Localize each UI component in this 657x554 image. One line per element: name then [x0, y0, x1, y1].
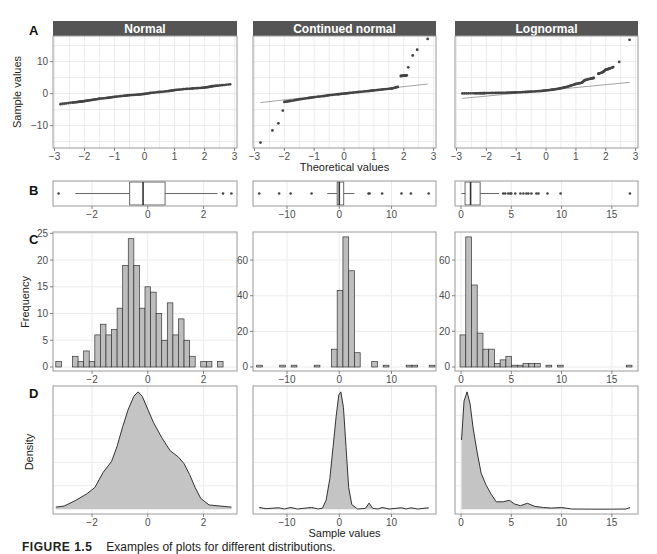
histogram-bar: [145, 287, 151, 367]
box-iqr: [465, 182, 480, 205]
box-iqr: [337, 182, 344, 205]
x-tick-label: 5: [509, 209, 515, 220]
outlier-point: [530, 192, 533, 195]
x-tick-label: 2: [201, 209, 207, 220]
histogram-bar: [184, 340, 190, 367]
y-tick-label: 20: [439, 326, 451, 337]
histogram-bar: [412, 365, 418, 367]
strip-title: Continued normal: [293, 22, 396, 36]
y-axis-label-sample-values: Sample values: [11, 55, 23, 128]
histogram-bar: [314, 365, 320, 367]
x-tick-label: 10: [556, 374, 568, 385]
x-tick-label: −3: [451, 151, 463, 162]
histogram-bar: [128, 239, 134, 367]
x-tick-label: −10: [279, 374, 296, 385]
histogram-panel-2: −100100204060: [237, 232, 436, 385]
x-tick-label: 10: [386, 209, 398, 220]
histogram-bar: [73, 356, 79, 367]
density-panel-3: 051015: [455, 386, 638, 528]
x-tick-label: 3: [431, 151, 437, 162]
figure-canvas: Normal−3−2−10123−10010Continued normal−3…: [0, 0, 657, 554]
histogram-bar: [84, 351, 90, 367]
histogram-bar: [56, 362, 62, 367]
histogram-bar: [337, 290, 343, 367]
row-label-b: B: [29, 183, 38, 198]
y-tick-label: 10: [37, 56, 49, 67]
y-axis-label-frequency: Frequency: [19, 276, 31, 328]
strip-title: Lognormal: [516, 22, 578, 36]
histogram-bar: [483, 349, 489, 367]
histogram-bar: [512, 365, 518, 367]
x-tick-label: −2: [481, 151, 493, 162]
histograms: −2020510152025−1001002040600510150204060…: [19, 228, 638, 385]
histogram-bar: [178, 319, 184, 367]
histogram-bar: [280, 365, 286, 367]
histogram-bar: [89, 362, 95, 367]
box-panel-1: −202: [53, 181, 237, 220]
histogram-bar: [257, 365, 263, 367]
histogram-bar: [429, 365, 435, 367]
outlier-point: [57, 192, 60, 195]
histogram-bar: [372, 362, 378, 367]
histogram-bar: [106, 335, 112, 367]
outlier-point: [514, 192, 517, 195]
histogram-bar: [460, 335, 466, 367]
x-tick-label: 1: [573, 151, 579, 162]
y-tick-label: 60: [237, 255, 249, 266]
y-tick-label: −10: [31, 120, 48, 131]
x-tick-label: 2: [201, 374, 207, 385]
x-tick-label: 10: [556, 209, 568, 220]
y-axis-label-density: Density: [23, 433, 35, 470]
x-tick-label: 0: [336, 209, 342, 220]
y-tick-label: 0: [42, 361, 48, 372]
caption-label: FIGURE 1.5: [22, 540, 92, 554]
outlier-point: [427, 192, 430, 195]
outlier-point: [400, 192, 403, 195]
histogram-bar: [406, 365, 412, 367]
x-tick-label: 0: [145, 374, 151, 385]
outlier-point: [230, 192, 233, 195]
sample-point: [407, 66, 410, 69]
caption-text: Examples of plots for different distribu…: [106, 540, 335, 554]
x-tick-label: −1: [109, 151, 121, 162]
x-tick-label: −10: [279, 209, 296, 220]
x-tick-label: 10: [386, 517, 398, 528]
y-tick-label: 15: [37, 281, 49, 292]
sample-point: [411, 54, 414, 57]
x-tick-label: −3: [249, 151, 261, 162]
sample-point: [405, 74, 408, 77]
sample-point: [416, 48, 419, 51]
histogram-bar: [201, 362, 207, 367]
outlier-point: [310, 192, 313, 195]
box-panel-3: 051015: [455, 181, 638, 220]
x-tick-label: −2: [86, 374, 98, 385]
histogram-bar: [134, 265, 140, 367]
x-tick-label: 2: [603, 151, 609, 162]
sample-point: [271, 129, 274, 132]
sample-point: [426, 37, 429, 40]
outlier-point: [368, 192, 371, 195]
histogram-bar: [523, 363, 529, 367]
histogram-bar: [626, 365, 632, 367]
y-tick-label: 0: [242, 361, 248, 372]
histogram-bar: [535, 363, 541, 367]
sample-point: [592, 77, 595, 80]
x-axis-label-theoretical-values: Theoretical values: [300, 161, 390, 173]
histogram-bar: [500, 360, 506, 367]
outlier-point: [381, 192, 384, 195]
histogram-bar: [343, 237, 349, 367]
strip-title: Normal: [124, 22, 165, 36]
y-tick-label: 20: [237, 326, 249, 337]
histogram-bar: [471, 285, 477, 367]
y-tick-label: 25: [37, 228, 49, 239]
y-tick-label: 0: [42, 88, 48, 99]
x-tick-label: 1: [172, 151, 178, 162]
histogram-bar: [506, 356, 512, 367]
histogram-bar: [173, 335, 179, 367]
qq-plots: Normal−3−2−10123−10010Continued normal−3…: [11, 21, 639, 173]
y-tick-label: 5: [42, 335, 48, 346]
histogram-bar: [546, 365, 552, 367]
x-tick-label: 0: [336, 374, 342, 385]
outlier-point: [222, 192, 225, 195]
histogram-bar: [117, 308, 123, 367]
